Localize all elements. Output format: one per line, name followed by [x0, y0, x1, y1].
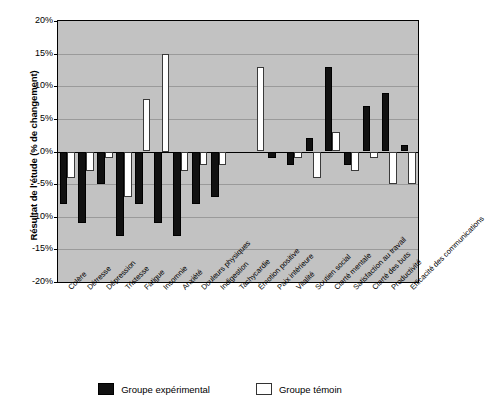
x-tick-label: Colère [67, 270, 88, 291]
white-square-icon [256, 383, 272, 395]
chart-legend: Groupe expérimental Groupe témoin [0, 383, 440, 395]
legend-label-control: Groupe témoin [279, 384, 342, 395]
black-square-icon [98, 383, 114, 395]
legend-item-control: Groupe témoin [256, 383, 342, 395]
legend-label-experimental: Groupe expérimental [121, 384, 210, 395]
x-tick-label: Efficacité des communications [409, 215, 485, 292]
legend-item-experimental: Groupe expérimental [98, 383, 210, 395]
